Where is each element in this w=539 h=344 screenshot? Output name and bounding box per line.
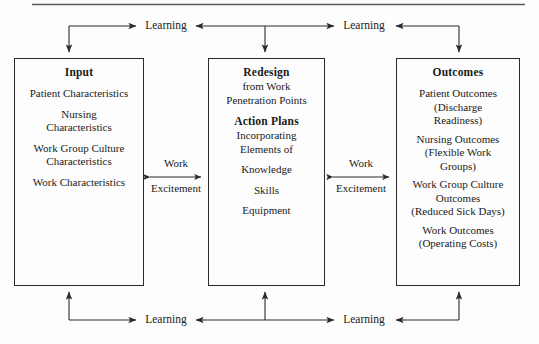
redesign-box: Redesign from Work Penetration Points Ac… [208,58,325,286]
label-learning-bottom-left: Learning [139,313,193,326]
redesign-box-title: Redesign [209,65,324,80]
outcomes-box-title: Outcomes [397,65,519,80]
label-excitement-left: Excitement [142,182,210,195]
input-item-work-group-culture: Work Group Culture Characteristics [15,142,143,169]
outcomes-item-work: Work Outcomes (Operating Costs) [397,224,519,251]
redesign-element-skills: Skills [209,184,324,198]
label-work-left: Work [145,157,207,170]
redesign-element-equipment: Equipment [209,204,324,218]
label-learning-top-right: Learning [337,19,391,32]
process-model-diagram: Input Patient Characteristics Nursing Ch… [0,0,539,344]
redesign-element-knowledge: Knowledge [209,163,324,177]
input-box: Input Patient Characteristics Nursing Ch… [14,58,144,286]
label-work-right: Work [330,157,392,170]
label-learning-top-left: Learning [139,19,193,32]
outcomes-item-nursing: Nursing Outcomes (Flexible Work Groups) [397,133,519,174]
input-item-nursing: Nursing Characteristics [15,108,143,135]
label-excitement-right: Excitement [327,182,395,195]
outcomes-item-work-group-culture: Work Group Culture Outcomes (Reduced Sic… [397,178,519,219]
redesign-incorporating: Incorporating Elements of [209,129,324,156]
input-box-title: Input [15,65,143,80]
redesign-subtitle: from Work Penetration Points [209,80,324,107]
redesign-action-plans-heading: Action Plans [209,114,324,129]
label-learning-bottom-right: Learning [337,313,391,326]
input-item-patient: Patient Characteristics [15,87,143,101]
outcomes-item-patient: Patient Outcomes (Discharge Readiness) [397,87,519,128]
input-item-work: Work Characteristics [15,176,143,190]
outcomes-box: Outcomes Patient Outcomes (Discharge Rea… [396,58,520,286]
